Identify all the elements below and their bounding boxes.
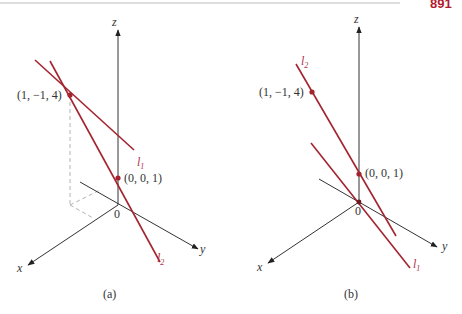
point-1-m1-4-b [309, 89, 314, 94]
page-number: 891 [430, 0, 452, 11]
z-label-b: z [353, 12, 359, 26]
x-axis [268, 202, 359, 263]
line-label-l1-b: l1 [413, 257, 420, 273]
x-axis [28, 205, 118, 265]
x-label-a: x [16, 261, 23, 275]
x-label-b: x [256, 260, 263, 274]
y-label-b: y [441, 239, 448, 253]
line-label-l2-a: l2 [157, 251, 164, 267]
point-0-0-1-b [356, 171, 361, 176]
figure-a: z x y 0 (1, −1, 4) (0, 0, 1) l1 l2 (a) [16, 15, 206, 301]
origin-label-a: 0 [114, 207, 120, 221]
y-axis [319, 179, 437, 247]
caption-a: (a) [103, 287, 116, 301]
axes-a [28, 30, 198, 265]
line-label-l2-b: l2 [301, 54, 308, 70]
origin-label-b: 0 [355, 204, 361, 218]
caption-b: (b) [344, 287, 358, 301]
point-1-m1-4-a [67, 92, 72, 97]
dashed-projection [70, 95, 100, 218]
figure-canvas: 891 z x y 0 (1, −1, 4) (0, 0, 1) l1 l2 (… [0, 0, 462, 314]
point-0-0-1-a [115, 175, 120, 180]
point-label-2-b: (0, 0, 1) [365, 166, 403, 180]
axes-b [268, 27, 437, 263]
line-l1-a [35, 60, 134, 150]
figure-b: z x y 0 (1, −1, 4) (0, 0, 1) l2 l1 (b) [256, 12, 448, 301]
point-label-2-a: (0, 0, 1) [124, 171, 162, 185]
y-label-a: y [199, 242, 206, 256]
y-axis [80, 182, 198, 249]
line-label-l1-a: l1 [137, 155, 144, 171]
z-label-a: z [111, 15, 117, 29]
point-label-1-a: (1, −1, 4) [17, 88, 62, 102]
point-label-1-b: (1, −1, 4) [259, 85, 304, 99]
